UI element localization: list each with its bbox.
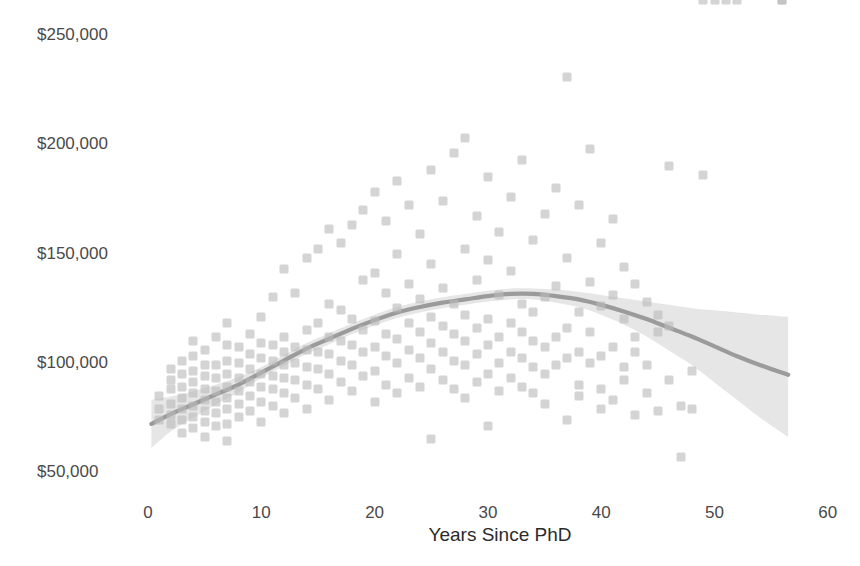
scatter-point: [336, 378, 345, 387]
scatter-point: [211, 398, 220, 407]
scatter-point: [699, 170, 708, 179]
scatter-point: [427, 435, 436, 444]
scatter-point: [223, 356, 232, 365]
scatter-point: [551, 332, 560, 341]
chart-figure: $50,000$100,000$150,000$200,000$250,000 …: [0, 0, 860, 566]
scatter-point: [393, 304, 402, 313]
scatter-point: [608, 395, 617, 404]
scatter-point: [313, 365, 322, 374]
scatter-point: [495, 387, 504, 396]
scatter-point: [189, 336, 198, 345]
y-tick-label: $100,000: [37, 353, 108, 373]
scatter-point: [438, 321, 447, 330]
scatter-point: [211, 374, 220, 383]
scatter-point: [404, 280, 413, 289]
plot-area[interactable]: [0, 0, 860, 566]
scatter-point: [563, 415, 572, 424]
scatter-point: [404, 201, 413, 210]
scatter-point: [517, 382, 526, 391]
scatter-point: [449, 299, 458, 308]
scatter-point: [268, 293, 277, 302]
scatter-point: [585, 328, 594, 337]
scatter-point: [608, 343, 617, 352]
scatter-point: [506, 347, 515, 356]
scatter-point: [438, 197, 447, 206]
scatter-point: [359, 275, 368, 284]
scatter-point: [506, 319, 515, 328]
scatter-point: [189, 352, 198, 361]
scatter-point: [665, 321, 674, 330]
scatter-point: [597, 301, 606, 310]
scatter-point: [585, 277, 594, 286]
scatter-point: [200, 345, 209, 354]
scatter-point: [665, 162, 674, 171]
scatter-point: [166, 400, 175, 409]
scatter-point: [619, 363, 628, 372]
scatter-point: [404, 319, 413, 328]
scatter-point: [427, 339, 436, 348]
y-tick-label: $50,000: [37, 462, 98, 482]
scatter-point: [529, 236, 538, 245]
scatter-point: [563, 354, 572, 363]
scatter-point: [302, 253, 311, 262]
scatter-point: [347, 221, 356, 230]
scatter-point: [495, 291, 504, 300]
scatter-point: [461, 360, 470, 369]
scatter-point: [449, 356, 458, 365]
scatter-point: [166, 376, 175, 385]
scatter-point: [302, 363, 311, 372]
scatter-point: [257, 312, 266, 321]
scatter-point: [540, 210, 549, 219]
scatter-point: [563, 253, 572, 262]
scatter-point: [257, 354, 266, 363]
scatter-point: [472, 378, 481, 387]
scatter-point: [517, 155, 526, 164]
scatter-point: [370, 343, 379, 352]
scatter-point: [483, 173, 492, 182]
scatter-point: [393, 358, 402, 367]
scatter-point: [200, 417, 209, 426]
scatter-point: [166, 365, 175, 374]
scatter-point: [257, 382, 266, 391]
scatter-point: [563, 72, 572, 81]
scatter-point: [245, 365, 254, 374]
scatter-point: [393, 177, 402, 186]
scatter-point: [211, 387, 220, 396]
scatter-point: [427, 166, 436, 175]
scatter-point: [608, 291, 617, 300]
scatter-point: [279, 360, 288, 369]
scatter-point: [721, 0, 730, 5]
scatter-point: [563, 323, 572, 332]
scatter-point: [234, 387, 243, 396]
scatter-point: [529, 336, 538, 345]
scatter-point: [529, 308, 538, 317]
scatter-point: [200, 406, 209, 415]
scatter-point: [325, 395, 334, 404]
scatter-point: [472, 275, 481, 284]
scatter-point: [302, 345, 311, 354]
scatter-point: [234, 400, 243, 409]
scatter-point: [211, 422, 220, 431]
scatter-point: [438, 284, 447, 293]
scatter-point: [200, 433, 209, 442]
scatter-point: [223, 319, 232, 328]
scatter-point: [177, 356, 186, 365]
scatter-point: [608, 214, 617, 223]
scatter-point: [438, 347, 447, 356]
scatter-point: [438, 376, 447, 385]
scatter-point: [461, 393, 470, 402]
scatter-point: [189, 367, 198, 376]
scatter-point: [200, 360, 209, 369]
scatter-point: [291, 358, 300, 367]
scatter-point: [676, 452, 685, 461]
scatter-point: [676, 402, 685, 411]
scatter-point: [404, 345, 413, 354]
scatter-point: [415, 354, 424, 363]
x-tick-label: 60: [818, 503, 837, 523]
scatter-point: [211, 360, 220, 369]
scatter-point: [370, 317, 379, 326]
scatter-point: [506, 266, 515, 275]
scatter-point: [268, 341, 277, 350]
scatter-point: [517, 328, 526, 337]
scatter-point: [483, 256, 492, 265]
